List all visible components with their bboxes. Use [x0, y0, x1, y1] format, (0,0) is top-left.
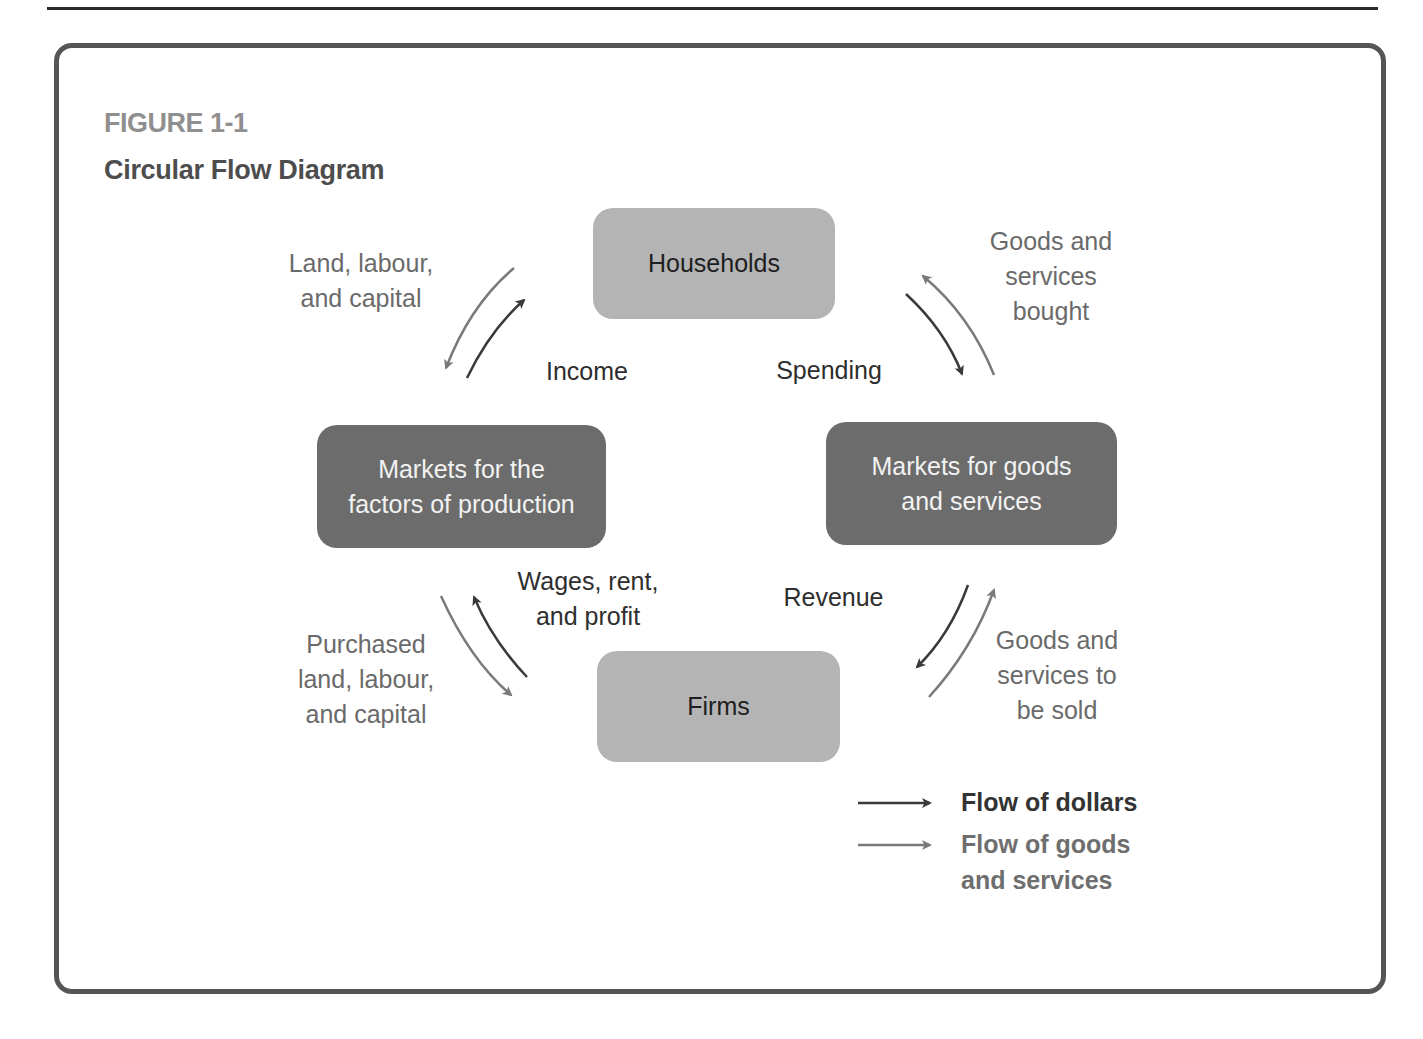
node-firms: Firms: [597, 651, 840, 762]
households-label: Households: [648, 246, 780, 281]
label-goods-services-to-be-sold: Goods and services to be sold: [972, 623, 1142, 728]
label-goods-services-bought: Goods and services bought: [966, 224, 1136, 329]
label-purchased-factors: Purchased land, labour, and capital: [276, 627, 456, 732]
factor-markets-label: Markets for the factors of production: [348, 452, 575, 522]
node-households: Households: [593, 208, 835, 319]
label-income: Income: [527, 354, 647, 389]
label-land-labour-capital: Land, labour, and capital: [266, 246, 456, 316]
node-factor-markets: Markets for the factors of production: [317, 425, 606, 548]
node-goods-markets: Markets for goods and services: [826, 422, 1117, 545]
label-revenue: Revenue: [771, 580, 896, 615]
legend-dollars-label: Flow of dollars: [961, 784, 1137, 820]
goods-markets-label: Markets for goods and services: [871, 449, 1071, 519]
legend-goods-label: Flow of goods and services: [961, 826, 1130, 898]
flow-arrows: [0, 0, 1423, 1039]
label-spending: Spending: [764, 353, 894, 388]
label-wages-rent-profit: Wages, rent, and profit: [503, 564, 673, 634]
firms-label: Firms: [687, 689, 749, 724]
